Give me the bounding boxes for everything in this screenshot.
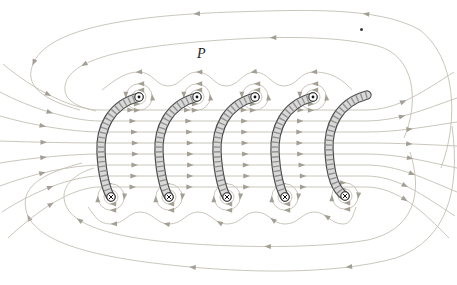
field-arrow-icon [95, 196, 100, 203]
field-arrow-icon [187, 141, 194, 146]
field-arrow-icon [241, 130, 248, 135]
field-arrow-icon [196, 81, 203, 86]
field-arrow-icon [192, 108, 199, 113]
field-arrow-icon [44, 91, 52, 98]
weaving-field-lines [88, 69, 356, 227]
current-dot-icon [138, 96, 141, 99]
field-arrow-icon [250, 69, 257, 75]
field-arrow-icon [149, 94, 155, 101]
coil-tube [101, 97, 139, 197]
field-arrow-icon [269, 196, 274, 203]
stray-dot [360, 28, 363, 31]
field-arrow-icon [110, 208, 117, 213]
field-arrow-icon [187, 163, 194, 168]
current-out-of-page-symbol [251, 93, 259, 101]
current-into-page-symbol [223, 193, 231, 201]
field-arrow-icon [130, 174, 137, 179]
current-into-page-symbol [107, 193, 115, 201]
field-arrow-icon [312, 88, 319, 93]
field-arrow-icon [242, 152, 249, 157]
field-arrow-icon [323, 213, 331, 221]
field-arrow-icon [241, 108, 248, 113]
field-arrow-icon [270, 35, 277, 40]
field-arrow-icon [39, 170, 46, 176]
field-arrow-icon [215, 219, 223, 227]
outer-loop-line [65, 37, 413, 138]
field-arrow-icon [138, 81, 145, 86]
current-out-of-page-symbol [309, 93, 317, 101]
field-arrow-icon [300, 174, 307, 179]
interior-field-line [0, 154, 457, 168]
field-arrow-icon [110, 201, 117, 206]
interior-field-lines [0, 64, 457, 238]
field-arrow-icon [129, 119, 136, 124]
field-arrow-icon [75, 216, 83, 224]
field-arrow-icon [196, 70, 203, 75]
weaving-field-line [102, 72, 352, 90]
current-dot-icon [196, 96, 199, 99]
field-arrow-icon [308, 108, 315, 113]
field-arrow-icon [310, 69, 317, 74]
field-arrow-icon [344, 207, 351, 212]
field-arrow-icon [131, 130, 138, 135]
field-arrow-icon [344, 200, 351, 205]
field-arrow-icon [299, 163, 306, 168]
interior-field-line [0, 141, 457, 146]
field-arrow-icon [297, 119, 304, 124]
field-arrow-icon [297, 152, 304, 157]
field-arrow-icon [187, 152, 194, 157]
field-arrow-icon [211, 196, 216, 203]
field-arrow-icon [264, 244, 271, 249]
field-arrow-icon [168, 201, 175, 206]
field-arrow-icon [134, 108, 141, 113]
field-lines-canvas [0, 0, 457, 285]
field-arrow-icon [187, 174, 194, 179]
field-arrow-icon [193, 11, 200, 16]
field-arrow-icon [243, 174, 250, 179]
field-arrow-icon [30, 58, 37, 66]
field-arrow-icon [80, 61, 88, 69]
outer-return-field-lines [25, 10, 454, 271]
field-arrow-icon [132, 152, 139, 157]
field-arrow-icon [129, 185, 136, 190]
field-point-label: P [197, 46, 206, 62]
field-arrow-icon [312, 81, 319, 86]
current-into-page-symbol [341, 192, 349, 200]
current-out-of-page-symbol [135, 93, 143, 101]
field-arrow-icon [40, 155, 47, 161]
field-arrow-icon [300, 185, 307, 190]
field-arrow-icon [398, 113, 406, 119]
coil-tube [217, 97, 255, 197]
current-dot-icon [312, 96, 315, 99]
field-arrow-icon [329, 195, 334, 202]
field-arrow-icon [269, 216, 277, 224]
coil-tube [275, 97, 313, 197]
current-out-of-page-symbol [193, 93, 201, 101]
field-arrow-icon [399, 98, 407, 105]
current-into-page-symbol [281, 193, 289, 201]
field-arrow-icon [284, 208, 291, 213]
outer-loop-line [31, 10, 452, 168]
field-arrow-icon [226, 208, 233, 213]
field-arrow-icon [40, 140, 47, 145]
field-arrow-icon [254, 88, 261, 93]
current-dot-icon [254, 96, 257, 99]
current-into-page-symbol [165, 193, 173, 201]
field-arrow-icon [254, 81, 261, 86]
field-arrow-icon [138, 88, 145, 93]
field-arrow-icon [186, 130, 193, 135]
field-arrow-icon [186, 185, 193, 190]
field-arrow-icon [189, 264, 196, 270]
field-arrow-icon [345, 264, 352, 270]
field-arrow-icon [401, 196, 409, 204]
field-arrow-icon [121, 193, 127, 200]
field-arrow-icon [196, 88, 203, 93]
field-arrow-icon [296, 141, 303, 146]
field-arrow-icon [243, 185, 250, 190]
field-arrow-icon [185, 119, 192, 124]
field-arrow-icon [110, 221, 117, 226]
field-arrow-icon [250, 108, 256, 113]
field-arrow-icon [296, 130, 303, 135]
field-arrow-icon [241, 119, 248, 124]
solenoid-field-figure: P [0, 0, 457, 285]
